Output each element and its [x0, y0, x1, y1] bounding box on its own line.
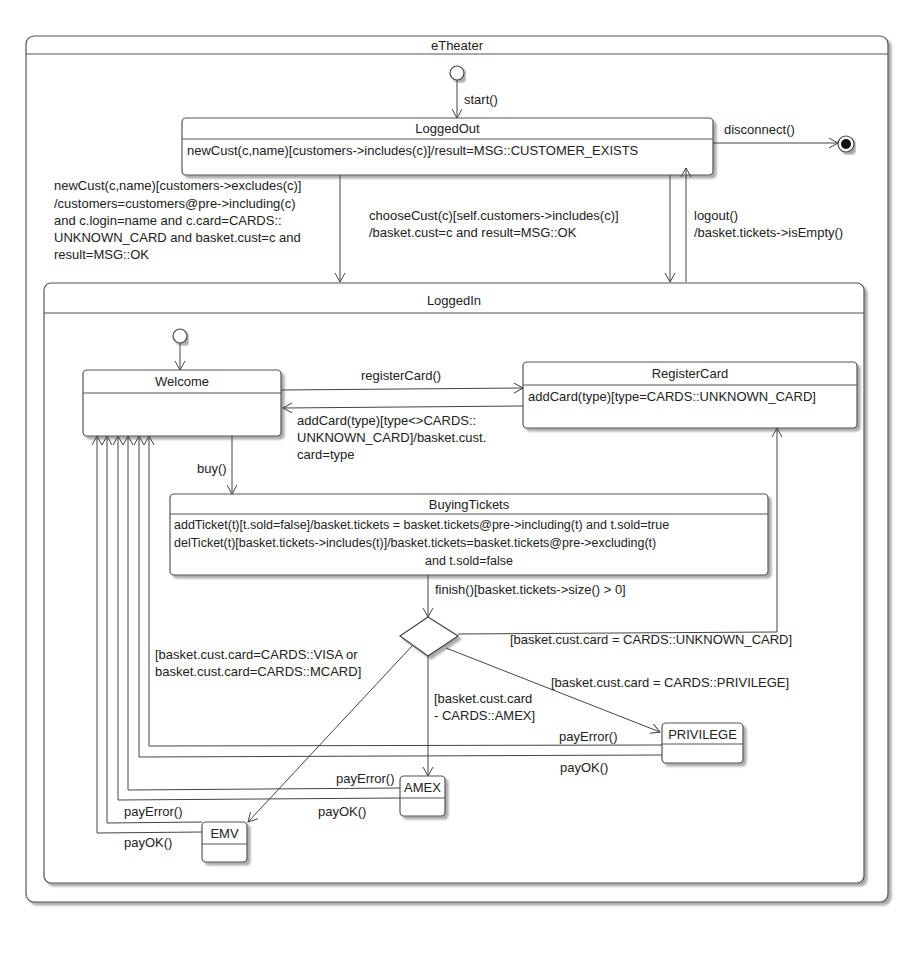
label-guard-privilege: [basket.cust.card = CARDS::PRIVILEGE] — [551, 675, 789, 691]
privilege-title: PRIVILEGE — [662, 727, 743, 743]
emv-title: EMV — [202, 826, 247, 842]
final-state — [838, 136, 854, 152]
label-guard-unknown: [basket.cust.card = CARDS::UNKNOWN_CARD] — [510, 632, 792, 648]
label-amex-pay-error: payError() — [336, 771, 395, 787]
buying-tickets-title: BuyingTickets — [170, 497, 768, 513]
label-start: start() — [464, 92, 498, 108]
buying-tickets-internal-1: addTicket(t)[t.sold=false]/basket.ticket… — [174, 517, 669, 533]
welcome-title: Welcome — [83, 374, 281, 390]
logged-out-title: LoggedOut — [182, 121, 713, 137]
amex-title: AMEX — [400, 780, 445, 796]
initial-state-logged-in — [173, 329, 187, 343]
label-logout-1: logout() — [694, 208, 738, 224]
label-new-cust-4: UNKNOWN_CARD and basket.cust=c and — [54, 230, 301, 246]
label-new-cust-5: result=MSG::OK — [54, 247, 149, 263]
label-new-cust-2: /customers=customers@pre->including(c) — [54, 196, 296, 212]
label-guard-amex-1: [basket.cust.card — [434, 691, 532, 707]
label-new-cust-1: newCust(c,name)[customers->excludes(c)] — [54, 178, 301, 194]
label-disconnect: disconnect() — [724, 122, 795, 138]
buying-tickets-internal-2: delTicket(t)[basket.tickets->includes(t)… — [174, 535, 656, 551]
label-choose-cust-1: chooseCust(c)[self.customers->includes(c… — [369, 208, 619, 224]
label-guard-amex-2: - CARDS::AMEX] — [434, 708, 535, 724]
label-choose-cust-2: /basket.cust=c and result=MSG::OK — [369, 225, 576, 241]
label-emv-pay-error: payError() — [124, 804, 183, 820]
logged-out-internal: newCust(c,name)[customers->includes(c)]/… — [187, 143, 638, 159]
label-add-card-3: card=type — [297, 447, 354, 463]
etheater-title-text: eTheater — [26, 38, 888, 54]
label-priv-pay-ok: payOK() — [560, 760, 608, 776]
label-emv-pay-ok: payOK() — [124, 835, 172, 851]
label-guard-visa-mcard-2: basket.cust.card=CARDS::MCARD] — [155, 664, 361, 680]
label-logout-2: /basket.tickets->isEmpty() — [694, 225, 843, 241]
label-register-card: registerCard() — [361, 368, 441, 384]
label-add-card-2: UNKNOWN_CARD]/basket.cust. — [297, 430, 486, 446]
register-card-title: RegisterCard — [523, 366, 857, 382]
register-card-internal: addCard(type)[type=CARDS::UNKNOWN_CARD] — [528, 389, 816, 405]
label-finish: finish()[basket.tickets->size() > 0] — [435, 582, 626, 598]
label-new-cust-3: and c.login=name and c.card=CARDS:: — [54, 213, 282, 229]
initial-state-root — [450, 66, 464, 80]
label-amex-pay-ok: payOK() — [318, 804, 366, 820]
label-priv-pay-error: payError() — [559, 729, 618, 745]
buying-tickets-internal-3: and t.sold=false — [170, 553, 768, 569]
label-buy: buy() — [197, 461, 227, 477]
label-add-card-1: addCard(type)[type<>CARDS:: — [297, 413, 476, 429]
label-guard-visa-mcard-1: [basket.cust.card=CARDS::VISA or — [155, 647, 358, 663]
logged-in-title: LoggedIn — [44, 293, 864, 309]
